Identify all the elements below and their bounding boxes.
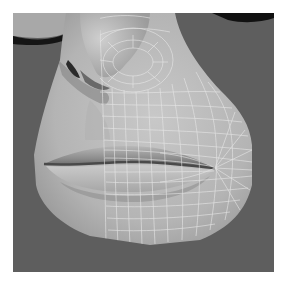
face-mesh-render [13, 13, 274, 272]
render-viewport [13, 13, 274, 272]
